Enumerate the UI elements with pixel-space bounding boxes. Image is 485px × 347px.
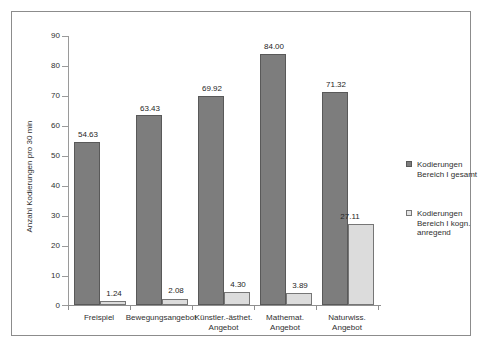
y-axis-labels: 90 80 70 60 50 40 30 20 10 0 bbox=[12, 12, 60, 347]
bar-value-label: 71.32 bbox=[314, 81, 358, 89]
y-tick-label: 80 bbox=[20, 62, 60, 70]
x-tick-mark bbox=[130, 305, 131, 310]
bar-kogn[interactable] bbox=[100, 301, 126, 305]
y-tick-label: 10 bbox=[20, 272, 60, 280]
bar-value-label: 84.00 bbox=[252, 43, 296, 51]
bar-total[interactable] bbox=[322, 92, 348, 305]
legend-swatch-icon bbox=[406, 210, 412, 216]
bar-group: 84.00 3.89 bbox=[254, 36, 316, 305]
plot-area: 54.63 1.24 63.43 2.08 69.92 4.30 bbox=[68, 36, 379, 305]
x-axis-line bbox=[68, 305, 381, 306]
bar-value-label: 27.11 bbox=[328, 213, 372, 221]
bar-group: 69.92 4.30 bbox=[192, 36, 254, 305]
bar-total[interactable] bbox=[136, 115, 162, 305]
x-category-label: Naturwiss. Angebot bbox=[307, 313, 387, 333]
bar-total[interactable] bbox=[198, 96, 224, 305]
legend-swatch-icon bbox=[406, 161, 412, 167]
x-tick-mark bbox=[254, 305, 255, 310]
x-tick-mark bbox=[316, 305, 317, 310]
bar-kogn[interactable] bbox=[286, 293, 312, 305]
chart-legend: Kodierungen Bereich I gesamt Kodierungen… bbox=[406, 160, 484, 256]
y-tick-label: 0 bbox=[20, 302, 60, 310]
bar-group: 71.32 27.11 bbox=[316, 36, 378, 305]
legend-label: Kodierungen Bereich I kogn. anregend bbox=[417, 209, 484, 238]
chart-figure: 90 80 70 60 50 40 30 20 10 0 Anzahl Kodi… bbox=[0, 0, 485, 347]
legend-entry-total[interactable]: Kodierungen Bereich I gesamt bbox=[406, 160, 484, 179]
x-tick-mark bbox=[68, 305, 69, 310]
legend-label: Kodierungen Bereich I gesamt bbox=[417, 160, 484, 179]
y-axis-title: Anzahl Kodierungen pro 30 min bbox=[25, 97, 34, 257]
bar-kogn[interactable] bbox=[348, 224, 374, 305]
bar-value-label: 69.92 bbox=[190, 85, 234, 93]
bar-total[interactable] bbox=[74, 142, 100, 305]
bar-kogn[interactable] bbox=[162, 299, 188, 305]
bar-group: 63.43 2.08 bbox=[130, 36, 192, 305]
x-tick-mark bbox=[192, 305, 193, 310]
bar-group: 54.63 1.24 bbox=[68, 36, 130, 305]
x-tick-mark bbox=[378, 305, 379, 310]
legend-entry-kogn[interactable]: Kodierungen Bereich I kogn. anregend bbox=[406, 209, 484, 238]
bar-total[interactable] bbox=[260, 54, 286, 305]
bar-value-label: 54.63 bbox=[66, 131, 110, 139]
figure-frame: 90 80 70 60 50 40 30 20 10 0 Anzahl Kodi… bbox=[11, 11, 471, 336]
y-tick-label: 90 bbox=[20, 32, 60, 40]
bar-value-label: 63.43 bbox=[128, 105, 172, 113]
bar-kogn[interactable] bbox=[224, 292, 250, 305]
